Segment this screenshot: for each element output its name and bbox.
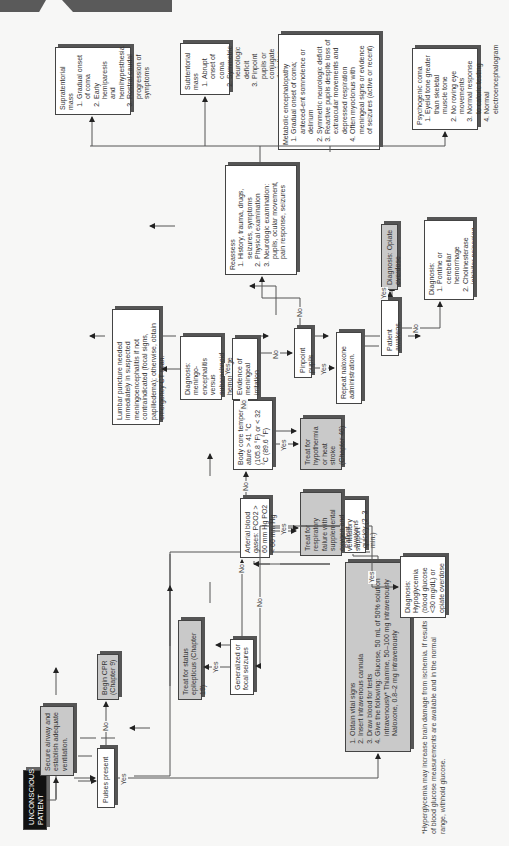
- label-yes-meningeal: Yes: [224, 363, 232, 376]
- label-no-meningeal: No: [272, 349, 280, 360]
- label-no-temp: No: [240, 399, 248, 410]
- label-no-seizures: No: [238, 563, 246, 574]
- label-yes-pinpoint: Yes: [320, 363, 328, 376]
- label-yes-abg: Yes: [280, 523, 288, 536]
- label-no-awakens-quickly: No: [256, 597, 264, 608]
- label-yes-awakens-quickly: Yes: [368, 571, 376, 584]
- flowchart-canvas: UNCONSCIOUS PATIENT Secure airway and es…: [0, 0, 509, 846]
- label-yes-seizures: Yes: [212, 661, 220, 674]
- label-no-awakens: No: [412, 323, 420, 334]
- label-yes-pulses: Yes: [120, 773, 128, 786]
- flow-arrows: [0, 0, 509, 846]
- label-yes-temp: Yes: [280, 439, 288, 452]
- label-no-pulses: No: [102, 721, 110, 732]
- label-yes-awakens: Yes: [380, 287, 388, 300]
- label-no-abg: No: [242, 481, 250, 492]
- label-no-pinpoint: No: [296, 307, 304, 318]
